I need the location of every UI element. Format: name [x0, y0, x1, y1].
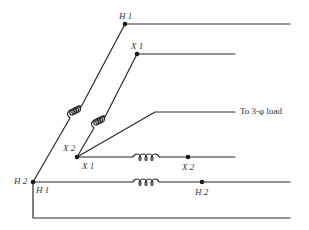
label-top-h1: H 1	[119, 12, 132, 21]
secondary-winding-1	[77, 54, 137, 157]
primary-winding-2	[33, 179, 290, 186]
load-line	[77, 112, 235, 157]
h-junction-terminal	[31, 180, 36, 185]
primary-winding-1	[33, 24, 125, 182]
x-junction-terminal	[75, 155, 80, 160]
label-left-h1: H 1	[36, 186, 49, 195]
right-x2-terminal	[186, 155, 191, 160]
secondary-winding-2	[77, 154, 235, 161]
bottom-return-line	[33, 182, 290, 218]
label-right-h2: H 2	[195, 188, 208, 197]
top-x1-terminal	[135, 52, 140, 57]
label-mid-x1: X 1	[82, 162, 94, 171]
label-mid-x2: X 2	[63, 144, 75, 153]
label-top-x1: X 1	[131, 42, 143, 51]
load-label: To 3-φ load	[240, 107, 282, 116]
label-right-x2: X 2	[182, 163, 194, 172]
label-left-h2: H 2	[14, 177, 27, 186]
top-h1-terminal	[123, 22, 128, 27]
right-h2-terminal	[200, 180, 205, 185]
